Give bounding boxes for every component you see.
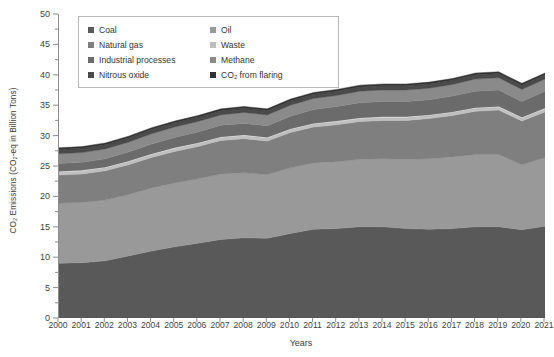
x-tick-label: 2008 — [234, 320, 253, 330]
legend-swatch-icon — [210, 72, 216, 78]
legend-item-label: Natural gas — [99, 40, 143, 50]
x-tick-label: 2015 — [396, 320, 415, 330]
y-axis-ticks: 05101520253035404550 — [22, 0, 50, 357]
chart-legend: CoalOilNatural gasWasteIndustrial proces… — [78, 16, 339, 88]
legend-swatch-icon — [88, 57, 94, 63]
x-axis-title: Years — [58, 338, 544, 348]
x-tick-label: 2000 — [48, 320, 67, 330]
legend-item: Methane — [210, 55, 330, 65]
x-axis-ticks: 2000200120022003200420052006200720082009… — [58, 320, 544, 336]
x-tick-label: 2012 — [326, 320, 345, 330]
legend-item-label: Methane — [221, 55, 254, 65]
legend-item-label: Oil — [221, 25, 232, 35]
x-tick-label: 2010 — [280, 320, 299, 330]
y-tick-label: 40 — [24, 70, 50, 80]
y-tick-label: 45 — [24, 39, 50, 49]
x-tick-label: 2001 — [72, 320, 91, 330]
legend-item: Nitrous oxide — [88, 70, 206, 80]
x-tick-label: 2018 — [465, 320, 484, 330]
legend-item: CO₂ from flaring — [210, 70, 330, 80]
legend-item: Natural gas — [88, 40, 206, 50]
x-tick-label: 2016 — [419, 320, 438, 330]
legend-swatch-icon — [88, 27, 94, 33]
x-tick-label: 2011 — [303, 320, 321, 330]
x-tick-label: 2002 — [95, 320, 114, 330]
x-tick-label: 2019 — [488, 320, 507, 330]
y-axis-title-text: CO₂ Emissions (CO₂-eq in Billion Tons) — [9, 87, 18, 233]
x-tick-label: 2009 — [257, 320, 276, 330]
x-tick-label: 2004 — [141, 320, 160, 330]
legend-item: Oil — [210, 25, 330, 35]
legend-swatch-icon — [210, 27, 216, 33]
y-tick-label: 0 — [24, 313, 50, 323]
legend-item-label: Coal — [99, 25, 117, 35]
x-tick-label: 2017 — [442, 320, 461, 330]
x-tick-label: 2020 — [511, 320, 530, 330]
y-tick-label: 10 — [24, 252, 50, 262]
legend-item: Waste — [210, 40, 330, 50]
x-axis-title-text: Years — [290, 338, 313, 348]
y-tick-label: 35 — [24, 100, 50, 110]
legend-item-label: Waste — [221, 40, 245, 50]
legend-item-label: Industrial processes — [99, 55, 175, 65]
x-tick-label: 2003 — [118, 320, 137, 330]
x-tick-label: 2021 — [534, 320, 553, 330]
legend-swatch-icon — [88, 72, 94, 78]
x-tick-label: 2006 — [187, 320, 206, 330]
x-tick-label: 2007 — [210, 320, 229, 330]
x-tick-label: 2005 — [164, 320, 183, 330]
y-tick-label: 30 — [24, 131, 50, 141]
y-tick-label: 25 — [24, 161, 50, 171]
legend-item: Coal — [88, 25, 206, 35]
x-tick-label: 2013 — [349, 320, 368, 330]
legend-item: Industrial processes — [88, 55, 206, 65]
y-tick-label: 15 — [24, 222, 50, 232]
x-tick-label: 2014 — [372, 320, 391, 330]
legend-swatch-icon — [210, 42, 216, 48]
legend-item-label: Nitrous oxide — [99, 70, 149, 80]
legend-swatch-icon — [210, 57, 216, 63]
y-axis-title: CO₂ Emissions (CO₂-eq in Billion Tons) — [2, 0, 24, 320]
y-tick-label: 20 — [24, 191, 50, 201]
y-tick-label: 5 — [24, 283, 50, 293]
legend-swatch-icon — [88, 42, 94, 48]
y-tick-label: 50 — [24, 9, 50, 19]
legend-item-label: CO₂ from flaring — [221, 70, 283, 80]
